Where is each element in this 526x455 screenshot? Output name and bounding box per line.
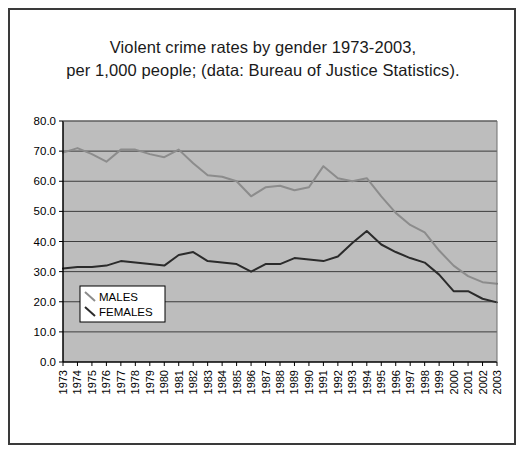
x-axis-label: 1998 <box>419 370 431 394</box>
x-axis-label: 1982 <box>187 370 199 394</box>
x-axis-label: 1973 <box>57 370 69 394</box>
x-axis-label: 1974 <box>71 370 83 394</box>
y-axis-label: 50.0 <box>34 205 56 217</box>
x-axis-labels: 1973197419751976197719781979198019811982… <box>57 370 503 394</box>
x-axis-label: 1989 <box>288 370 300 394</box>
chart-canvas: 0.010.020.030.040.050.060.070.080.0 1973… <box>0 0 526 455</box>
y-axis-label: 80.0 <box>34 115 56 127</box>
y-axis-label: 10.0 <box>34 326 56 338</box>
y-axis-labels: 0.010.020.030.040.050.060.070.080.0 <box>34 115 56 368</box>
x-axis-label: 1986 <box>245 370 257 394</box>
x-axis-label: 1988 <box>274 370 286 394</box>
y-axis-label: 20.0 <box>34 296 56 308</box>
x-axis-label: 1992 <box>332 370 344 394</box>
x-axis-label: 1975 <box>86 370 98 394</box>
y-axis-label: 30.0 <box>34 266 56 278</box>
y-axis-label: 0.0 <box>40 356 56 368</box>
x-axis-label: 1997 <box>404 370 416 394</box>
y-axis-label: 70.0 <box>34 145 56 157</box>
x-axis-label: 1991 <box>317 370 329 394</box>
x-axis-label: 1983 <box>202 370 214 394</box>
x-axis-label: 1976 <box>100 370 112 394</box>
x-axis-label: 1985 <box>231 370 243 394</box>
x-axis-label: 1993 <box>346 370 358 394</box>
x-axis-label: 1979 <box>144 370 156 394</box>
y-axis-label: 40.0 <box>34 236 56 248</box>
y-axis-label: 60.0 <box>34 175 56 187</box>
chart-legend: MALESFEMALES <box>80 286 165 322</box>
x-axis-label: 1994 <box>361 370 373 394</box>
legend-label-females: FEMALES <box>99 306 153 318</box>
x-axis-label: 1999 <box>433 370 445 394</box>
x-axis-label: 1978 <box>129 370 141 394</box>
x-axis-label: 2002 <box>477 370 489 394</box>
x-axis-label: 1984 <box>216 370 228 394</box>
x-axis-label: 1977 <box>115 370 127 394</box>
x-axis-label: 1996 <box>390 370 402 394</box>
x-axis-label: 1990 <box>303 370 315 394</box>
x-axis-label: 1980 <box>158 370 170 394</box>
x-axis-label: 2001 <box>462 370 474 394</box>
x-axis-label: 2000 <box>448 370 460 394</box>
legend-label-males: MALES <box>99 291 138 303</box>
line-chart-svg: 0.010.020.030.040.050.060.070.080.0 1973… <box>0 0 526 455</box>
x-axis-label: 2003 <box>491 370 503 394</box>
x-axis-label: 1981 <box>173 370 185 394</box>
x-axis-label: 1995 <box>375 370 387 394</box>
x-axis-label: 1987 <box>260 370 272 394</box>
